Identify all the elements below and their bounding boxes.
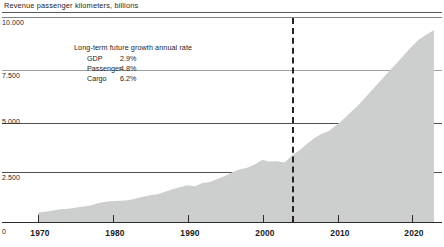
annotation-row-passenger: Passenger 4.8%: [74, 64, 192, 74]
x-tick-2020: [412, 215, 413, 222]
x-axis-line: [2, 222, 442, 223]
y-tick-label-2500: 2.500: [2, 174, 20, 181]
gridline-10000: [2, 17, 442, 18]
title-divider: [2, 12, 442, 13]
x-tick-1990: [188, 215, 189, 222]
annotation-heading: Long-term future growth annual rate: [74, 43, 192, 53]
x-tick-2000: [263, 215, 264, 222]
forecast-divider-line: [292, 18, 294, 222]
x-tick-label-1980: 1980: [105, 228, 124, 238]
x-tick-label-1970: 1970: [30, 228, 49, 238]
annotation-value-cargo: 6.2%: [120, 74, 136, 84]
annotation-row-gdp: GDP 2.9%: [74, 54, 192, 64]
y-tick-label-7500: 7.500: [2, 72, 20, 79]
x-axis-origin-label: 0: [2, 228, 6, 235]
x-tick-2010: [338, 215, 339, 222]
x-tick-label-1990: 1990: [180, 228, 199, 238]
annotation-value-passenger: 4.8%: [120, 64, 136, 74]
x-tick-label-2000: 2000: [255, 228, 274, 238]
growth-rate-annotation: Long-term future growth annual rate GDP …: [74, 43, 192, 84]
gridline-2500: [2, 172, 442, 173]
annotation-value-gdp: 2.9%: [120, 54, 136, 64]
x-tick-label-2020: 2020: [404, 228, 423, 238]
annotation-label-passenger: Passenger: [74, 64, 120, 74]
y-tick-label-10000: 10.000: [2, 19, 24, 26]
gridline-7500: [2, 70, 442, 71]
chart-container: Revenue passenger kilometers, billions 1…: [0, 0, 444, 247]
x-tick-1970: [38, 215, 39, 222]
annotation-row-cargo: Cargo 6.2%: [74, 74, 192, 84]
x-tick-1980: [113, 215, 114, 222]
annotation-label-cargo: Cargo: [74, 74, 120, 84]
chart-title: Revenue passenger kilometers, billions: [4, 1, 138, 10]
x-tick-label-2010: 2010: [330, 228, 349, 238]
y-tick-label-5000: 5.000: [2, 118, 20, 125]
annotation-label-gdp: GDP: [74, 54, 120, 64]
gridline-5000: [2, 123, 442, 124]
